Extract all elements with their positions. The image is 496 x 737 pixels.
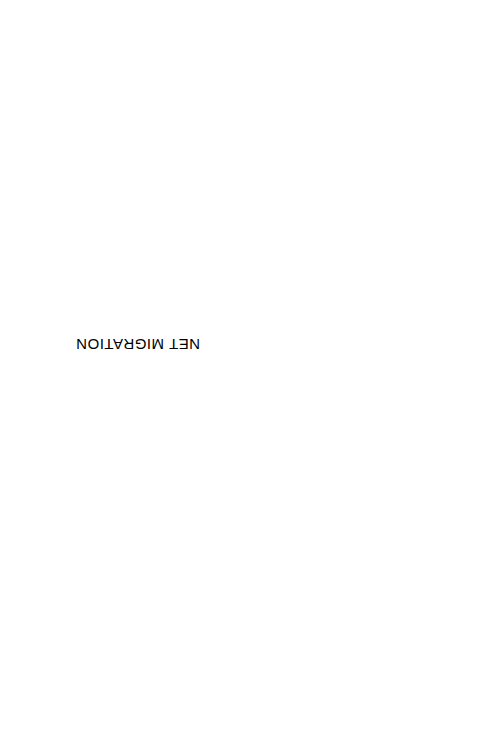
figure-rotated-group: NET MIGRATION NATURAL CHANGE (0, 0, 496, 737)
panel-natural-change: NATURAL CHANGE (0, 0, 496, 347)
panel-net-migration: NET MIGRATION (0, 347, 496, 737)
figure-canvas: NET MIGRATION NATURAL CHANGE (0, 0, 496, 737)
